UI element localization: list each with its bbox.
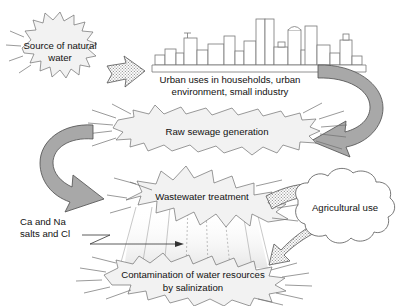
arrow-raw-sewage-to-wastewater[interactable] bbox=[40, 125, 104, 212]
wastewater-label: Wastewater treatment bbox=[155, 191, 249, 202]
arrow-urban-to-raw-sewage[interactable] bbox=[311, 65, 383, 157]
source-to-urban-arrow-shape bbox=[107, 56, 145, 87]
node-raw-sewage-generation[interactable]: Raw sewage generation bbox=[86, 103, 347, 155]
urban-label-line2: environment, small industry bbox=[172, 86, 289, 97]
urban-to-raw-sewage-arrow-shape bbox=[311, 65, 383, 157]
agricultural-label: Agricultural use bbox=[312, 202, 378, 213]
node-urban-uses[interactable]: Urban uses in households, urban environm… bbox=[152, 19, 366, 97]
raw-sewage-label: Raw sewage generation bbox=[166, 126, 269, 137]
city-skyline-icon bbox=[152, 19, 366, 72]
source-label-line1: Source of natural bbox=[23, 40, 96, 51]
source-label-line2: water bbox=[47, 52, 72, 63]
water-salinization-cycle-diagram: Source of natural water bbox=[0, 0, 397, 306]
urban-label-line1: Urban uses in households, urban bbox=[160, 74, 301, 85]
salts-label-line1: Ca and Na bbox=[20, 216, 67, 227]
diagram-canvas: Source of natural water bbox=[0, 0, 397, 306]
node-source-of-natural-water[interactable]: Source of natural water bbox=[6, 12, 97, 78]
salts-label-line2: salts and Cl bbox=[20, 228, 70, 239]
arrow-source-to-urban[interactable] bbox=[107, 56, 145, 87]
contamination-label-line1: Contamination of water resources bbox=[121, 269, 265, 280]
contamination-label-line2: by salinization bbox=[163, 282, 223, 293]
node-agricultural-use[interactable]: Agricultural use bbox=[296, 168, 395, 243]
raw-sewage-to-wastewater-arrow-shape bbox=[40, 125, 104, 212]
